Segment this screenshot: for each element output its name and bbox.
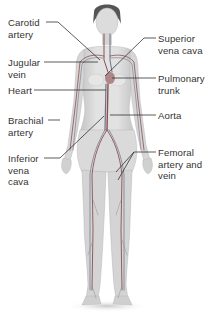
right-leg (108, 170, 132, 300)
label-jugular-vein: Jugular vein (8, 57, 40, 80)
label-superior-vena-cava: Superior vena cava (158, 33, 203, 56)
floor-shadow (65, 300, 149, 312)
head (96, 8, 118, 36)
label-heart: Heart (8, 85, 32, 97)
pelvis (77, 130, 137, 172)
label-pulmonary-trunk: Pulmonary trunk (158, 73, 205, 96)
label-carotid-artery: Carotid artery (8, 17, 40, 40)
label-inferior-vena-cava: Inferior vena cava (8, 153, 39, 188)
heart-shape (105, 72, 115, 84)
circulatory-diagram: Carotid artery Jugular vein Heart Brachi… (0, 0, 210, 317)
label-femoral-artery-and-vein: Femoral artery and vein (158, 147, 202, 182)
left-leg (82, 170, 106, 300)
label-brachial-artery: Brachial artery (8, 115, 43, 138)
label-aorta: Aorta (158, 110, 181, 122)
